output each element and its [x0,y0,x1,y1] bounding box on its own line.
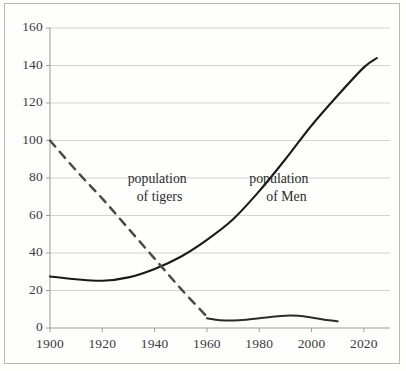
y-axis-label-20: 20 [29,282,43,298]
men-label-line1: population [249,171,308,186]
y-axis-label-160: 160 [22,19,43,35]
y-axis-label-40: 40 [29,244,43,260]
population-of-men-label: population of Men [249,170,308,205]
x-axis-label-1980: 1980 [229,336,289,352]
x-axis-label-1960: 1960 [177,336,237,352]
y-axis-label-100: 100 [22,132,43,148]
y-axis-label-80: 80 [29,169,43,185]
y-axis-label-120: 120 [22,94,43,110]
series-path-0 [50,58,377,281]
x-axis-label-1900: 1900 [20,336,80,352]
line-chart-canvas [0,0,406,371]
x-axis-label-1920: 1920 [72,336,132,352]
population-of-tigers-label: population of tigers [128,170,187,205]
men-label-line2: of Men [249,188,308,206]
y-axis-label-0: 0 [36,319,43,335]
series-path-2 [207,316,338,322]
y-axis-label-140: 140 [22,57,43,73]
gridlines [50,28,390,291]
data-series [50,58,377,321]
x-axis-label-2020: 2020 [334,336,394,352]
chart-screenshot: 020406080100120140160 190019201940196019… [0,0,406,371]
y-axis-label-60: 60 [29,207,43,223]
tick-marks [46,28,364,332]
x-axis-label-2000: 2000 [282,336,342,352]
x-axis-label-1940: 1940 [125,336,185,352]
tigers-label-line1: population [128,171,187,186]
tigers-label-line2: of tigers [128,188,187,206]
